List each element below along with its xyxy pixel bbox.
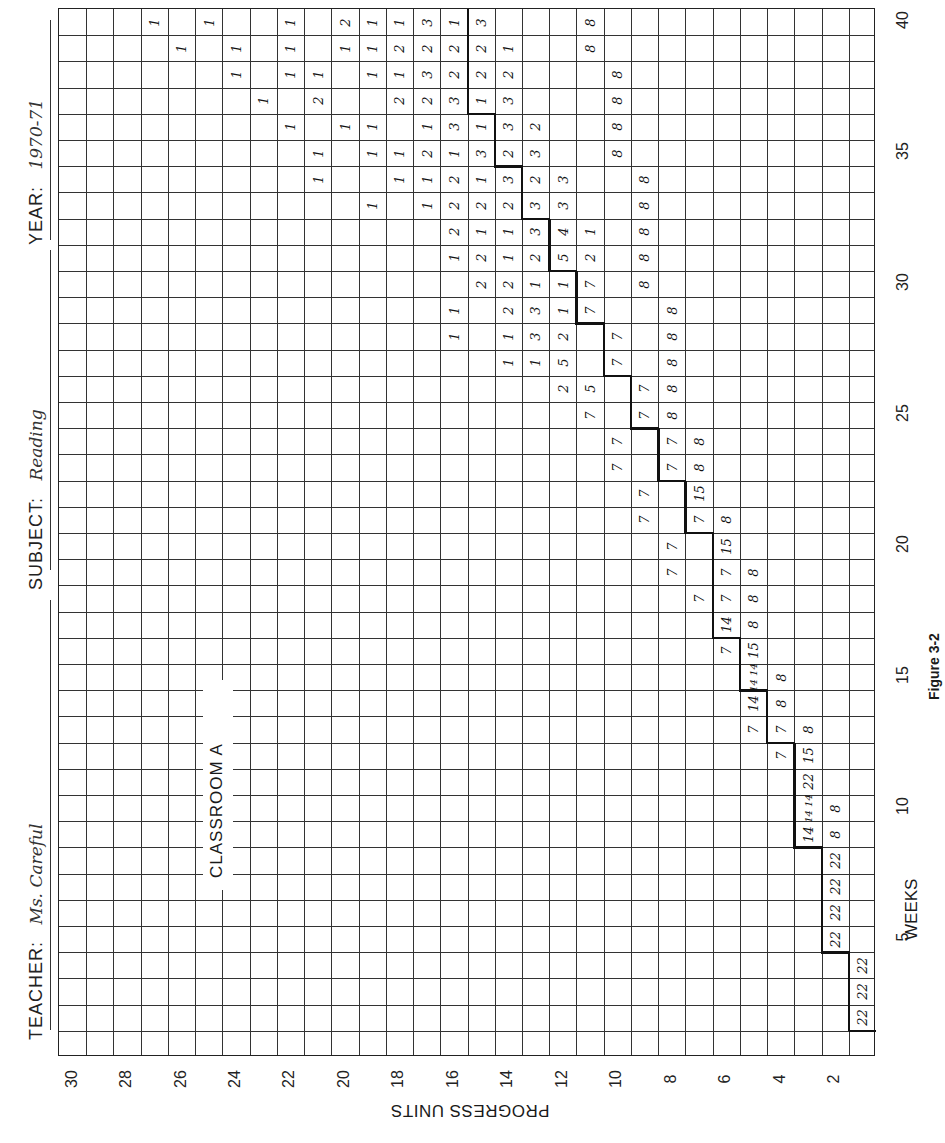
week-tick-label: 15 [894,660,912,690]
cell-entry: 22 [822,900,849,926]
cell-entry: 22 [794,769,821,795]
cell-entry: 1 [440,323,467,349]
cell-entry: 15 [685,481,712,507]
cell-entry: 2 [468,245,495,271]
cell-entry: 1 [495,219,522,245]
cell-entry: 1 [576,219,603,245]
cell-entry: 1 [304,166,331,192]
cell-entry: 3 [522,140,549,166]
teacher-label: TEACHER: [26,941,46,1040]
weeks-axis-title-text: WEEKS [902,879,921,940]
figure-caption-text: Figure 3-2 [926,633,942,700]
cell-entry: 2 [522,166,549,192]
progress-step-line [575,271,577,323]
cell-entry: 15 [794,743,821,769]
cell-entry: 1 [495,35,522,61]
cell-entry: 8 [576,35,603,61]
unit-tick-label: 22 [280,1064,298,1094]
cell-entry: 7 [713,559,740,585]
cell-entry: 8 [631,245,658,271]
cell-entry: 2 [440,166,467,192]
cell-entry: 7 [713,585,740,611]
progress-step-line [603,323,605,375]
grid-hline [59,454,874,455]
grid-hline [59,350,874,351]
progress-step-line [467,9,469,61]
cell-entry: 3 [413,9,440,35]
grid-hline [59,1005,874,1006]
progress-step-line [467,113,496,115]
cell-entry: 1 [222,61,249,87]
cell-entry: 15 [713,533,740,559]
progress-step-line [657,480,686,482]
cell-entry: 1 [468,88,495,114]
unit-tick-label: 8 [662,1064,680,1094]
week-tick-label: 30 [894,267,912,297]
year-value: 1970-71 [26,99,46,170]
cell-entry: 7 [658,428,685,454]
progress-step-line [739,638,741,690]
cell-entry: 1 [304,140,331,166]
progress-step-line [494,165,523,167]
cell-entry: 3 [522,219,549,245]
grid-hline [59,952,874,953]
cell-entry: 1 [331,114,358,140]
unit-tick-label: 10 [607,1064,625,1094]
cell-entry: 1 [386,166,413,192]
cell-entry: 1 [440,297,467,323]
cell-entry: 1 [277,61,304,87]
grid-hline [59,900,874,901]
grid-hline [59,1031,874,1032]
grid-hline [59,271,874,272]
year-field: YEAR: 1970-71 [26,99,47,245]
cell-entry: 1 [359,192,386,218]
progress-step-line [848,952,850,1031]
cell-entry: 2 [468,35,495,61]
cell-entry: 7 [604,350,631,376]
week-tick-label: 40 [894,5,912,35]
cell-entry: 3 [468,140,495,166]
cell-entry: 1 [413,166,440,192]
grid-hline [59,769,874,770]
week-tick-label: 25 [894,398,912,428]
progress-step-line [467,61,469,113]
grid-hline [59,821,874,822]
cell-entry: 22 [822,926,849,952]
cell-entry: 7 [576,297,603,323]
cell-entry: 8 [713,507,740,533]
cell-entry: 1 [386,61,413,87]
cell-entry: 2 [576,245,603,271]
cell-entry: 22 [849,952,876,978]
cell-entry: 3 [413,61,440,87]
cell-entry: 7 [713,638,740,664]
progress-step-line [521,166,523,218]
cell-entry: 2 [549,323,576,349]
cell-entry: 2 [386,88,413,114]
grid-hline [59,428,874,429]
progress-step-line [766,742,795,744]
cell-entry: 1 [386,9,413,35]
progress-step-line [657,428,659,480]
cell-entry: 7 [767,716,794,742]
cell-entry: 3 [522,323,549,349]
unit-tick-label: 12 [553,1064,571,1094]
cell-entry: 2 [495,61,522,87]
cell-entry: 2 [522,114,549,140]
cell-entry: 3 [468,9,495,35]
grid-hline [59,926,874,927]
cell-entry: 8 [740,612,767,638]
progress-step-line [603,375,632,377]
cell-entry: 4 [549,219,576,245]
cell-entry: 8 [631,271,658,297]
cell-entry: 3 [522,297,549,323]
progress-step-line [684,481,686,533]
cell-entry: 8 [658,402,685,428]
cell-entry: 15 [740,638,767,664]
cell-entry: 5 [549,350,576,376]
grid-hline [59,402,874,403]
cell-entry: 2 [468,271,495,297]
progress-grid: 2222222222222214814 1482271577814814 148… [58,8,875,1056]
unit-tick-label: 6 [716,1064,734,1094]
cell-entry: 8 [822,821,849,847]
cell-entry: 7 [576,271,603,297]
